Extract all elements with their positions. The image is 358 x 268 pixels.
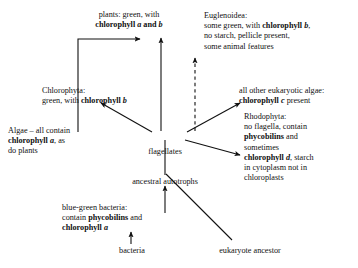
text-line: all other eukaryotic algae: xyxy=(239,86,324,96)
text-line: chlorophyll d, starch xyxy=(244,153,314,163)
text-run: blue-green bacteria: xyxy=(62,203,127,212)
text-run: Rhodophyta: xyxy=(244,112,286,121)
text-line: Rhodophyta: xyxy=(244,112,314,122)
text-line: blue-green bacteria: xyxy=(62,203,142,213)
text-line: Chlorophyta: xyxy=(42,86,127,96)
node-eukaryote-ancestor: eukaryote ancestor xyxy=(196,246,304,256)
node-plants: plants: green, withchlorophyll a and b xyxy=(49,10,209,30)
text-line: green, with chlorophyll b xyxy=(42,96,127,106)
text-run: do plants xyxy=(8,146,38,155)
node-euglenoidea: Euglenoidea:some green, with chlorophyll… xyxy=(204,11,310,52)
node-bacteria: bacteria xyxy=(103,246,161,256)
text-run: b xyxy=(159,20,163,29)
text-run: sometimes xyxy=(244,143,279,152)
node-rhodophyta: Rhodophyta:no flagella, containphycobili… xyxy=(244,112,314,183)
text-line: some green, with chlorophyll b, xyxy=(204,21,310,31)
text-line: chlorophyll a xyxy=(62,223,142,233)
text-run: Algae – all contain xyxy=(8,126,70,135)
text-line: contain phycobilins and xyxy=(62,213,142,223)
text-run: chlorophyll xyxy=(262,21,304,30)
text-run: some green, with xyxy=(204,21,262,30)
text-run: phycobilins xyxy=(88,213,128,222)
text-run: green, with xyxy=(42,96,81,105)
text-run: no flagella, contain xyxy=(244,122,307,131)
node-algae-note: Algae – all containchlorophyll a, asdo p… xyxy=(8,126,70,157)
text-run: some animal features xyxy=(204,42,274,51)
text-line: chloroplasts xyxy=(244,173,314,183)
text-run: chlorophyll xyxy=(239,96,281,105)
node-flagellates: flagellates xyxy=(131,147,199,157)
text-run: no starch, pellicle present, xyxy=(204,31,290,40)
node-ancestral-autotrophs: ancestral autotrophs xyxy=(107,177,223,187)
text-run: phycobilins xyxy=(244,132,284,141)
text-run: chlorophyll xyxy=(62,223,104,232)
text-run: and xyxy=(128,213,142,222)
text-run: plants: green, with xyxy=(99,10,160,19)
text-run: b xyxy=(123,96,127,105)
text-line: flagellates xyxy=(131,147,199,157)
text-line: phycobilins and xyxy=(244,132,314,142)
text-run: chlorophyll xyxy=(8,136,50,145)
edge-flagellates-other-algae xyxy=(187,103,240,132)
node-chlorophyta: Chlorophyta:green, with chlorophyll b xyxy=(42,86,127,106)
text-run: present xyxy=(285,96,311,105)
text-line: Algae – all contain xyxy=(8,126,70,136)
text-line: chlorophyll c present xyxy=(239,96,324,106)
text-line: no flagella, contain xyxy=(244,122,314,132)
text-run: ancestral autotrophs xyxy=(132,177,198,186)
diagram-canvas: plants: green, withchlorophyll a and b E… xyxy=(0,0,358,268)
text-run: Euglenoidea: xyxy=(204,11,247,20)
text-line: chlorophyll a and b xyxy=(49,20,209,30)
text-line: in cytoplasm not in xyxy=(244,163,314,173)
node-other-eukaryotic-algae: all other eukaryotic algae:chlorophyll c… xyxy=(239,86,324,106)
text-line: no starch, pellicle present, xyxy=(204,31,310,41)
text-line: sometimes xyxy=(244,143,314,153)
edge-flagellates-chlorophyta xyxy=(101,103,152,132)
text-run: all other eukaryotic algae: xyxy=(239,86,324,95)
text-run: , starch xyxy=(290,153,314,162)
text-run: , as xyxy=(54,136,65,145)
text-run: and xyxy=(141,20,158,29)
text-line: do plants xyxy=(8,146,70,156)
text-run: Chlorophyta: xyxy=(42,86,85,95)
text-run: , xyxy=(308,21,310,30)
text-line: eukaryote ancestor xyxy=(196,246,304,256)
text-run: chlorophyll xyxy=(81,96,123,105)
text-run: bacteria xyxy=(119,246,145,255)
text-run: chloroplasts xyxy=(244,173,284,182)
text-run: in cytoplasm not in xyxy=(244,163,307,172)
text-line: some animal features xyxy=(204,42,310,52)
text-run: eukaryote ancestor xyxy=(219,246,281,255)
text-run: contain xyxy=(62,213,88,222)
node-blue-green-bacteria: blue-green bacteria:contain phycobilins … xyxy=(62,203,142,234)
text-run: and xyxy=(284,132,298,141)
text-run: a xyxy=(104,223,108,232)
text-run: chlorophyll xyxy=(244,153,286,162)
text-line: Euglenoidea: xyxy=(204,11,310,21)
text-run: chlorophyll xyxy=(95,20,137,29)
text-line: bacteria xyxy=(103,246,161,256)
text-line: plants: green, with xyxy=(49,10,209,20)
text-run: flagellates xyxy=(148,147,182,156)
text-line: ancestral autotrophs xyxy=(107,177,223,187)
text-line: chlorophyll a, as xyxy=(8,136,70,146)
